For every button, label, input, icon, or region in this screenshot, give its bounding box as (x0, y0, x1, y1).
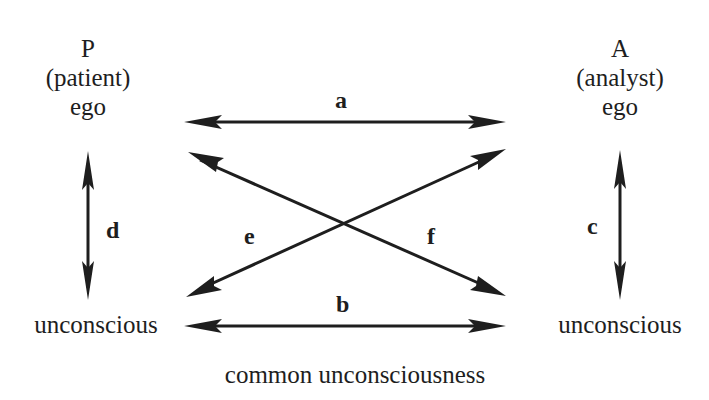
patient-role: (patient) (28, 63, 148, 92)
edge-label-b: b (336, 292, 349, 316)
edge-d-arrow (82, 151, 94, 300)
edge-label-c: c (587, 214, 598, 238)
edge-label-e: e (244, 224, 255, 248)
edge-b-arrow (184, 319, 506, 333)
edge-a-arrow (184, 115, 506, 129)
node-analyst-unconscious: unconscious (535, 310, 705, 340)
edge-label-d: d (106, 218, 119, 242)
analyst-ego-label: ego (558, 92, 682, 121)
node-analyst-ego: A (analyst) ego (558, 34, 682, 121)
patient-ego-label: ego (28, 92, 148, 121)
edge-label-a: a (335, 88, 347, 112)
analyst-letter: A (558, 34, 682, 63)
edge-f-arrow (188, 152, 506, 296)
patient-letter: P (28, 34, 148, 63)
edge-label-f: f (427, 224, 435, 248)
node-patient-ego: P (patient) ego (28, 34, 148, 121)
analyst-role: (analyst) (558, 63, 682, 92)
node-patient-unconscious: unconscious (16, 310, 176, 340)
diagram-caption: common unconsciousness (180, 360, 530, 390)
edge-c-arrow (614, 150, 626, 300)
